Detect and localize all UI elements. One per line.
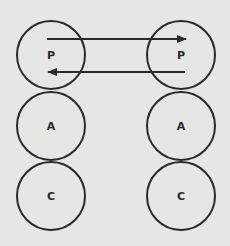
right-parent-label: P — [177, 49, 185, 62]
pac-diagram: P A C P A C — [0, 0, 230, 246]
left-ego-states: P A C — [17, 21, 85, 230]
left-child-label: C — [47, 190, 55, 203]
right-child-label: C — [177, 190, 185, 203]
left-parent-label: P — [47, 49, 55, 62]
right-adult-label: A — [177, 120, 186, 133]
right-ego-states: P A C — [147, 21, 215, 230]
left-adult-label: A — [47, 120, 56, 133]
